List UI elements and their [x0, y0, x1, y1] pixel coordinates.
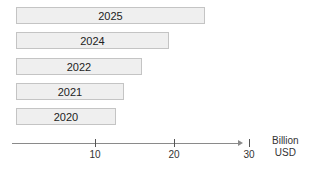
x-tick-label-20: 20: [164, 149, 184, 160]
bar-2022: 2022: [16, 58, 142, 75]
x-tick-30: [249, 139, 250, 147]
x-tick-20: [174, 139, 175, 147]
x-tick-10: [95, 139, 96, 147]
bar-2021: 2021: [16, 83, 124, 100]
bar-2025: 2025: [16, 7, 205, 24]
bar-2020: 2020: [16, 108, 116, 125]
unit-line-2: USD: [272, 147, 299, 159]
x-axis-arrow-icon: [238, 140, 243, 146]
x-tick-label-10: 10: [85, 149, 105, 160]
bar-2024: 2024: [16, 32, 169, 49]
x-axis-line: [12, 143, 240, 144]
unit-line-1: Billion: [272, 135, 299, 147]
x-tick-label-30: 30: [239, 149, 259, 160]
x-axis-unit-label: Billion USD: [272, 135, 299, 159]
